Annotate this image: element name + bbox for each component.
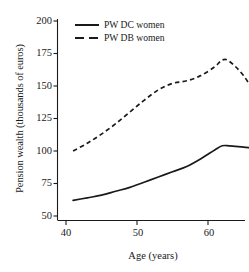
series-line-pw-db-women — [73, 59, 249, 151]
chart-svg — [0, 0, 249, 272]
axes-group — [54, 19, 246, 225]
x-axis-ticks — [66, 221, 208, 226]
y-axis-ticks — [54, 21, 58, 216]
chart-container: Pension wealth (thousands of euros) 200 … — [0, 0, 249, 272]
series-line-pw-dc-women — [73, 145, 249, 200]
